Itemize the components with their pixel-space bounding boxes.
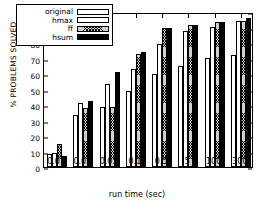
legend-swatch-hmax (77, 17, 109, 23)
x-axis-tick-label: 300 (232, 157, 247, 166)
y-axis-tick-mark (44, 169, 48, 170)
x-axis-tick-label: 0.1 (129, 157, 142, 166)
x-axis-tick-label: 0.03 (73, 157, 91, 166)
y-axis-tick-label: 40 (30, 103, 44, 112)
legend-label: hsum (52, 33, 73, 42)
legend: originalhmaxffhsum (16, 4, 113, 46)
bar-group (178, 14, 198, 167)
y-axis-tick-label: 20 (30, 134, 44, 143)
x-axis-title: run time (sec) (0, 190, 274, 199)
legend-swatch-ff (77, 26, 109, 32)
y-axis-tick-label: 60 (30, 72, 44, 81)
y-axis-tick-label: 10 (30, 149, 44, 158)
x-axis-tick-label: 0.5 (155, 157, 168, 166)
x-axis-tick-label: 100 (206, 157, 221, 166)
legend-swatch-hsum (77, 34, 109, 40)
legend-item-hmax: hmax (20, 16, 109, 24)
bar-hsum-5 (193, 25, 198, 167)
bar-group (231, 14, 251, 167)
x-axis-tick-label: 0.01 (47, 157, 65, 166)
y-axis-tick-mark (248, 169, 252, 170)
bar-hsum-100 (220, 22, 225, 167)
y-axis-tick-label: 50 (30, 87, 44, 96)
bar-hsum-300 (246, 18, 251, 167)
legend-swatch-original (77, 9, 109, 15)
legend-item-hsum: hsum (20, 33, 109, 41)
y-axis-tick-label: 70 (30, 56, 44, 65)
legend-item-original: original (20, 8, 109, 16)
x-axis-tick-label: 5 (185, 157, 190, 166)
bar-hsum-0.1 (141, 52, 146, 167)
bar-group (205, 14, 225, 167)
bar-chart: % PROBLEMS SOLVED run time (sec) 0102030… (0, 0, 274, 209)
x-axis-tick-label: 0.05 (100, 157, 118, 166)
bar-hsum-0.5 (167, 28, 172, 168)
y-axis-tick-label: 30 (30, 118, 44, 127)
bar-hsum-0.05 (115, 72, 120, 167)
legend-item-ff: ff (20, 25, 109, 33)
bar-group (126, 14, 146, 167)
y-axis-tick-label: 0 (35, 165, 44, 174)
bar-group (152, 14, 172, 167)
